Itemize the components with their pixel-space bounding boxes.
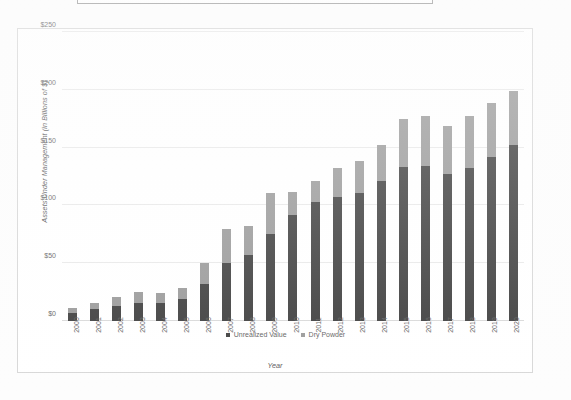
bar-segment-dry-powder[interactable] [200,263,209,284]
x-axis-tick-label: 2003 [134,323,143,357]
x-axis-tick-label: 2011 [311,323,320,357]
bar-segment-dry-powder[interactable] [509,91,518,145]
bar-segment-unrealized-value[interactable] [311,202,320,321]
bar-segment-unrealized-value[interactable] [443,174,452,321]
bar-column[interactable] [112,32,121,321]
legend-item-label: Dry Powder [309,331,346,338]
x-axis-tick-label: 2018 [465,323,474,357]
bar-column[interactable] [465,32,474,321]
bar-segment-unrealized-value[interactable] [509,145,518,321]
bar-segment-unrealized-value[interactable] [355,193,364,321]
bar-segment-dry-powder[interactable] [288,192,297,215]
y-axis-title: Assets Under Management (in Billions of … [40,42,49,262]
bar-column[interactable] [487,32,496,321]
x-axis-tick-label: 2013 [355,323,364,357]
bar-segment-dry-powder[interactable] [156,293,165,302]
bar-segment-dry-powder[interactable] [443,126,452,175]
bar-column[interactable] [443,32,452,321]
screenshot-page: Assets Under Management (in Billions of … [0,0,571,400]
bar-column[interactable] [288,32,297,321]
bar-column[interactable] [311,32,320,321]
x-axis-tick-label: 2019 [487,323,496,357]
bar-segment-unrealized-value[interactable] [200,284,209,321]
bar-segment-dry-powder[interactable] [465,116,474,168]
x-axis-tick-label: 2009 [266,323,275,357]
bar-segment-unrealized-value[interactable] [244,255,253,321]
plot-area: $0$50$100$150$200$250 [62,32,524,321]
bar-segment-unrealized-value[interactable] [465,168,474,321]
chart-legend: Unrealized ValueDry Powder [0,331,571,338]
bar-column[interactable] [178,32,187,321]
x-axis-tick-labels: 2000200120022003200420052006200720082009… [62,323,524,357]
bar-column[interactable] [509,32,518,321]
bar-segment-dry-powder[interactable] [487,103,496,157]
bar-segment-dry-powder[interactable] [266,193,275,235]
bar-column[interactable] [244,32,253,321]
bar-column[interactable] [222,32,231,321]
bar-segment-dry-powder[interactable] [311,181,320,202]
bar-segment-unrealized-value[interactable] [421,166,430,321]
bar-segment-dry-powder[interactable] [421,116,430,166]
bar-segment-unrealized-value[interactable] [222,263,231,321]
x-axis-tick-label: 2010 [288,323,297,357]
bar-segment-dry-powder[interactable] [178,288,187,300]
bar-segment-dry-powder[interactable] [399,119,408,168]
bar-segment-dry-powder[interactable] [222,229,231,264]
cropped-element-above-chart [77,0,433,4]
bar-series-group [62,32,524,321]
legend-item[interactable]: Unrealized Value [226,331,287,338]
x-axis-title: Year [18,361,532,370]
x-axis-tick-label: 2007 [222,323,231,357]
y-axis-tick-label: $50 [22,252,56,259]
bar-segment-unrealized-value[interactable] [377,181,386,321]
bar-column[interactable] [333,32,342,321]
x-axis-tick-label: 2004 [156,323,165,357]
x-axis-tick-label: 2000 [68,323,77,357]
bar-segment-dry-powder[interactable] [377,145,386,181]
x-axis-tick-label: 2002 [112,323,121,357]
y-axis-tick-label: $250 [22,21,56,28]
x-axis-tick-label: 2005 [178,323,187,357]
bar-column[interactable] [134,32,143,321]
bar-segment-dry-powder[interactable] [333,168,342,197]
x-axis-tick-label: 2016 [421,323,430,357]
chart-container: Assets Under Management (in Billions of … [17,28,533,373]
x-axis-tick-label: 2006 [200,323,209,357]
bar-column[interactable] [200,32,209,321]
bar-column[interactable] [355,32,364,321]
bar-segment-unrealized-value[interactable] [288,215,297,321]
bar-column[interactable] [68,32,77,321]
y-axis-tick-label: $0 [22,310,56,317]
x-axis-tick-label: 2020 [509,323,518,357]
x-axis-tick-label: 2014 [377,323,386,357]
x-axis-tick-label: 2017 [443,323,452,357]
bar-segment-unrealized-value[interactable] [399,167,408,321]
x-axis-tick-label: 2012 [333,323,342,357]
bar-segment-dry-powder[interactable] [355,161,364,192]
bar-column[interactable] [399,32,408,321]
bar-segment-dry-powder[interactable] [90,303,99,310]
bar-segment-unrealized-value[interactable] [487,157,496,321]
bar-column[interactable] [90,32,99,321]
x-axis-tick-label: 2008 [244,323,253,357]
x-axis-tick-label: 2001 [90,323,99,357]
bar-segment-dry-powder[interactable] [112,297,121,306]
y-axis-tick-label: $150 [22,137,56,144]
bar-column[interactable] [377,32,386,321]
bar-segment-unrealized-value[interactable] [333,197,342,321]
bar-column[interactable] [421,32,430,321]
y-axis-tick-label: $200 [22,79,56,86]
bar-segment-dry-powder[interactable] [134,292,143,302]
bar-segment-dry-powder[interactable] [244,226,253,255]
legend-item[interactable]: Dry Powder [301,331,346,338]
legend-swatch-icon [301,333,305,337]
y-axis-tick-label: $100 [22,194,56,201]
legend-swatch-icon [226,333,230,337]
bar-segment-unrealized-value[interactable] [266,234,275,321]
legend-item-label: Unrealized Value [234,331,287,338]
bar-column[interactable] [156,32,165,321]
x-axis-tick-label: 2015 [399,323,408,357]
bar-column[interactable] [266,32,275,321]
